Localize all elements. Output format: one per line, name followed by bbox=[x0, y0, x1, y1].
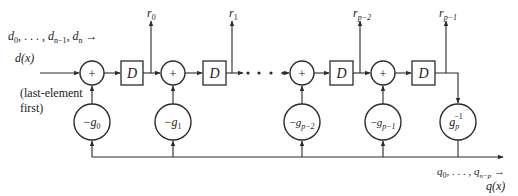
ellipsis-dots bbox=[246, 71, 284, 74]
svg-text:+: + bbox=[88, 66, 95, 81]
output-sequence-label: q0, . . . , qn−p → bbox=[437, 165, 505, 180]
input-note-line2: first) bbox=[20, 101, 43, 115]
division-circuit-diagram: d0, . . . , dn−1, dn → d(x) (last-elemen… bbox=[0, 0, 518, 196]
output-r0-label: r0 bbox=[147, 6, 156, 22]
output-poly-label: q(x) bbox=[486, 179, 505, 193]
svg-text:+: + bbox=[379, 66, 386, 81]
input-sequence-label: d0, . . . , dn−1, dn → bbox=[8, 29, 98, 45]
output-rp-1-label: rp−1 bbox=[439, 6, 457, 22]
svg-text:D: D bbox=[208, 66, 219, 81]
output-rp-2-label: rp−2 bbox=[353, 6, 371, 22]
input-poly-label: d(x) bbox=[15, 51, 34, 65]
feedback-arrow bbox=[435, 73, 458, 103]
svg-text:D: D bbox=[417, 66, 428, 81]
svg-text:+: + bbox=[298, 66, 305, 81]
output-r1-label: r1 bbox=[229, 6, 238, 22]
svg-text:D: D bbox=[335, 66, 346, 81]
input-note-line1: (last-element bbox=[20, 86, 83, 100]
svg-text:D: D bbox=[126, 66, 137, 81]
svg-text:+: + bbox=[169, 66, 176, 81]
